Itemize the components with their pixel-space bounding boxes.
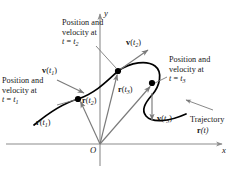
callout-t1-line2: velocity at xyxy=(2,86,60,96)
velocity-vector-t1 xyxy=(57,80,84,93)
callout-t2: Position and velocity at t = t2 xyxy=(62,18,128,48)
callout-t2-line3: t = t2 xyxy=(62,37,128,48)
callout-t3-line2: velocity at xyxy=(169,65,235,75)
label-r-t2: r(t2) xyxy=(82,96,97,107)
trajectory-figure: y x O Position and velocity at t = t2 Po… xyxy=(0,0,236,169)
leader-line-trajectory xyxy=(186,100,213,110)
point-t1 xyxy=(75,96,81,102)
label-v-t2: v(t2) xyxy=(126,38,141,49)
x-axis-label: x xyxy=(222,145,226,155)
y-axis-label: y xyxy=(104,8,108,18)
label-r-t1-close: ) xyxy=(48,118,51,127)
label-r-t3: r(t3) xyxy=(118,85,133,96)
label-r-t3-sub: 3 xyxy=(127,89,130,95)
label-v-t1: v(t1) xyxy=(42,66,57,77)
origin-label: O xyxy=(90,145,96,155)
trajectory-function: r(t) xyxy=(197,126,209,136)
callout-t3-line1: Position and xyxy=(169,55,235,65)
label-v-t3-close: ) xyxy=(169,114,172,123)
callout-t2-line1: Position and xyxy=(62,18,128,28)
point-t3 xyxy=(149,80,155,86)
label-v-t3: v(t3) xyxy=(157,114,172,125)
label-r-t3-close: ) xyxy=(130,85,133,94)
label-r-t2-close: ) xyxy=(94,96,97,105)
callout-t1-line1: Position and xyxy=(2,76,60,86)
trajectory-function-arg: (t) xyxy=(201,126,209,135)
label-v-t2-sub: 2 xyxy=(135,42,138,48)
position-vector-t1 xyxy=(81,102,101,145)
callout-t1: Position and velocity at t = t1 xyxy=(2,76,60,106)
callout-t1-eq: = xyxy=(4,95,13,104)
label-v-t1-close: ) xyxy=(54,66,57,75)
label-v-t1-sub: 1 xyxy=(51,70,54,76)
callout-t2-eq: = xyxy=(64,37,73,46)
callout-t2-line2: velocity at xyxy=(62,28,128,38)
callout-t3-line3: t = t3 xyxy=(169,74,235,85)
leader-line-t3 xyxy=(155,77,167,83)
leader-line-t2 xyxy=(96,46,116,68)
callout-t3-sub: 3 xyxy=(183,78,186,84)
callout-t1-line3: t = t1 xyxy=(2,95,60,106)
callout-t1-sub: 1 xyxy=(16,99,19,105)
callout-t3: Position and velocity at t = t3 xyxy=(169,55,235,85)
point-t2 xyxy=(115,68,121,74)
label-r-t2-sub: 2 xyxy=(91,100,94,106)
velocity-vector-t2 xyxy=(118,50,148,71)
label-v-t2-close: ) xyxy=(138,38,141,47)
label-r-t1: r(t1) xyxy=(36,118,51,129)
label-r-t1-sub: 1 xyxy=(45,122,48,128)
trajectory-label: Trajectory xyxy=(190,115,224,125)
callout-t3-eq: = xyxy=(171,74,180,83)
callout-t2-sub: 2 xyxy=(76,41,79,47)
label-v-t3-sub: 3 xyxy=(166,118,169,124)
